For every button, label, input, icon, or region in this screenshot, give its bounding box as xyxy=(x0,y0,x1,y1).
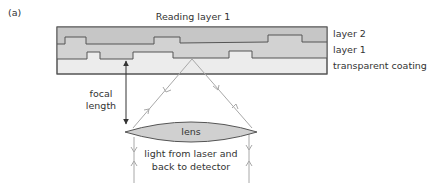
legend-layer-2: layer 2 xyxy=(333,28,366,39)
legend-transparent-coating: transparent coating xyxy=(333,60,427,71)
light-caption-line2: back to detector xyxy=(152,161,230,172)
disc-reading-diagram: (a) Reading layer 1 layer 2 layer 1 tran… xyxy=(0,0,427,187)
ray-direction-down-icon xyxy=(213,85,219,90)
focal-label-line1: focal xyxy=(90,88,113,99)
diagram-title: Reading layer 1 xyxy=(156,11,230,22)
light-caption-line1: light from laser and xyxy=(144,148,237,159)
disc-layers xyxy=(57,27,327,74)
legend-layer-1: layer 1 xyxy=(333,44,366,55)
panel-label: (a) xyxy=(8,7,21,18)
lens-label: lens xyxy=(181,126,201,137)
focal-label-line2: length xyxy=(86,100,116,111)
